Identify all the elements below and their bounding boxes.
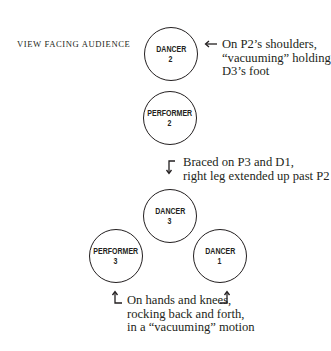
figure-label: DANCER xyxy=(205,246,235,257)
figure-performer-2: PERFORMER 2 xyxy=(143,91,197,145)
note-dancer-2: On P2’s shoulders, “vacuuming” holding D… xyxy=(222,38,331,79)
note-line: right leg extended up past P2 xyxy=(183,170,330,184)
view-caption: VIEW FACING AUDIENCE xyxy=(17,39,130,49)
figure-label: PERFORMER xyxy=(94,246,139,257)
figure-number: 2 xyxy=(168,118,172,129)
note-line: in a “vacuuming” motion xyxy=(127,321,255,335)
note-line: “vacuuming” holding xyxy=(222,52,331,66)
arrow-left-icon xyxy=(204,39,218,49)
figure-dancer-3: DANCER 3 xyxy=(143,189,197,243)
figure-performer-3: PERFORMER 3 xyxy=(89,229,143,283)
figure-number: 3 xyxy=(114,256,118,267)
figure-number: 1 xyxy=(218,256,222,267)
arrow-turn-down-icon xyxy=(165,159,177,175)
note-line: On P2’s shoulders, xyxy=(222,38,331,52)
figure-label: DANCER xyxy=(155,206,185,217)
note-line: Braced on P3 and D1, xyxy=(183,156,330,170)
arrow-turn-up-left-icon xyxy=(112,290,124,306)
figure-dancer-2: DANCER 2 xyxy=(144,27,198,81)
note-base: On hands and knees, rocking back and for… xyxy=(127,294,255,335)
note-dancer-3: Braced on P3 and D1, right leg extended … xyxy=(183,156,330,183)
figure-number: 3 xyxy=(168,216,172,227)
figure-label: PERFORMER xyxy=(148,108,193,119)
figure-label: DANCER xyxy=(156,44,186,55)
figure-number: 2 xyxy=(169,54,173,65)
note-line: D3’s foot xyxy=(222,65,331,79)
note-line: On hands and knees, xyxy=(127,294,255,308)
note-line: rocking back and forth, xyxy=(127,308,255,322)
figure-dancer-1: DANCER 1 xyxy=(193,229,247,283)
